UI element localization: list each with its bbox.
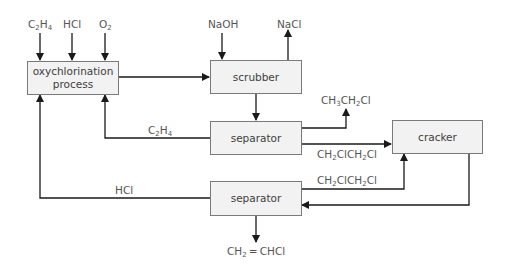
- separator-1-label: separator: [231, 132, 282, 145]
- naoh-feed-label: NaOH: [208, 18, 238, 30]
- dce-recycle-label: CH2ClCH2Cl: [317, 174, 377, 190]
- scrubber-label: scrubber: [233, 71, 279, 84]
- c2h4-feed-label: C2H4: [28, 18, 52, 34]
- separator-1-box: separator: [210, 121, 302, 155]
- oxychlorination-process-box: oxychlorination process: [27, 61, 119, 95]
- nacl-output-label: NaCl: [277, 18, 302, 30]
- cracker-box: cracker: [392, 120, 483, 154]
- oxychlorination-label-line2: process: [53, 78, 93, 91]
- arrow-hcl-recycle: [40, 95, 210, 198]
- scrubber-box: scrubber: [210, 60, 302, 94]
- cracker-label: cracker: [418, 131, 457, 144]
- hcl-recycle-label: HCl: [115, 184, 133, 196]
- arrow-chloroethane: [301, 109, 346, 128]
- oxychlorination-label-line1: oxychlorination: [33, 65, 114, 78]
- chloroethane-output-label: CH3CH2Cl: [321, 94, 371, 110]
- vinyl-chloride-output-label: CH2 ═ CHCl: [227, 245, 285, 261]
- o2-feed-label: O2: [99, 18, 112, 34]
- hcl-feed-label: HCl: [63, 18, 81, 30]
- c2h4-recycle-label: C2H4: [148, 124, 172, 140]
- dce-to-cracker-label: CH2ClCH2Cl: [317, 148, 377, 164]
- separator-2-box: separator: [210, 181, 302, 216]
- separator-2-label: separator: [231, 192, 282, 205]
